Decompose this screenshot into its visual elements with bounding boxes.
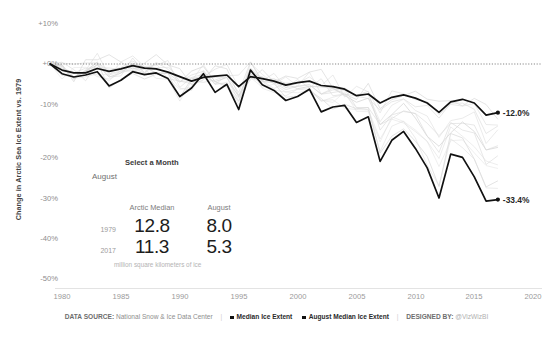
table-footnote: million square kilometers of ice xyxy=(114,261,290,268)
month-selector-panel: Select a Month August Arctic Median Augu… xyxy=(90,158,290,268)
series-end-dot-august xyxy=(496,198,500,202)
x-tick-2015: 2015 xyxy=(454,292,494,301)
month-dropdown-value[interactable]: August xyxy=(92,172,290,181)
legend-label-median: Median Ice Extent xyxy=(237,313,293,320)
legend-label-august: August Median Ice Extent xyxy=(309,313,389,320)
end-label-median-ice-extent: -12.0% xyxy=(503,108,530,118)
select-a-month-label: Select a Month xyxy=(125,158,290,167)
designer-label: DESIGNED BY: xyxy=(406,313,453,320)
column-header-august: August xyxy=(188,203,250,215)
data-source-value: National Snow & Ice Data Center xyxy=(116,313,213,320)
data-source-label: DATA SOURCE: xyxy=(65,313,114,320)
summary-table: Arctic Median August 1979 12.8 8.0 2017 … xyxy=(90,203,250,257)
column-header-arctic-median: Arctic Median xyxy=(116,203,188,215)
x-axis-line xyxy=(55,288,542,289)
chart-footer: DATA SOURCE: National Snow & Ice Data Ce… xyxy=(0,313,553,320)
table-row: 1979 12.8 8.0 xyxy=(90,215,250,236)
designer-handle: @VizWizBI xyxy=(455,313,488,320)
x-tick-2005: 2005 xyxy=(337,292,377,301)
cell-august-1979: 8.0 xyxy=(188,215,250,236)
table-row: 2017 11.3 5.3 xyxy=(90,236,250,257)
x-tick-2010: 2010 xyxy=(396,292,436,301)
legend-swatch-august-icon xyxy=(302,316,306,320)
x-tick-1990: 1990 xyxy=(160,292,200,301)
cell-arctic-median-1979: 12.8 xyxy=(116,215,188,236)
cell-august-2017: 5.3 xyxy=(188,236,250,257)
x-tick-1980: 1980 xyxy=(42,292,82,301)
x-tick-1995: 1995 xyxy=(219,292,259,301)
footer-separator-2: | xyxy=(391,313,405,320)
row-year-1979: 1979 xyxy=(90,215,116,236)
table-header-row: Arctic Median August xyxy=(90,203,250,215)
x-tick-1985: 1985 xyxy=(101,292,141,301)
x-tick-2020: 2020 xyxy=(513,292,553,301)
legend-swatch-median-icon xyxy=(230,316,234,320)
x-tick-2000: 2000 xyxy=(278,292,318,301)
footer-separator-1: | xyxy=(215,313,229,320)
column-header-year xyxy=(90,203,116,215)
row-year-2017: 2017 xyxy=(90,236,116,257)
cell-arctic-median-2017: 11.3 xyxy=(116,236,188,257)
context-month-line xyxy=(50,64,498,169)
chart-canvas: Change in Arctic Sea Ice Extent vs. 1979… xyxy=(0,0,553,341)
series-end-dot-median xyxy=(496,111,500,115)
end-label-august-median-ice-extent: -33.4% xyxy=(503,195,530,205)
